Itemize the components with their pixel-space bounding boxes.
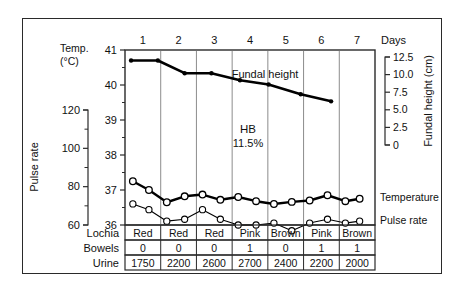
postnatal-observation-chart: 1234567Days414039383736Temp.(°C)12010080… [0, 0, 462, 293]
fundal-axis-bracket [385, 57, 390, 145]
table-cell-bowels-day-1: 0 [140, 242, 146, 254]
day-tick-label-5: 5 [283, 34, 289, 46]
data-point [324, 216, 330, 222]
fundal-tick-label-10.0: 10.0 [393, 68, 414, 80]
fundal-axis-title: Fundal height (cm) [422, 55, 434, 147]
table-cell-bowels-day-6: 1 [319, 242, 325, 254]
data-point [130, 178, 137, 185]
table-cell-urine-day-3: 2600 [203, 257, 227, 269]
table-cell-lochia-day-5: Brown [271, 227, 301, 239]
day-tick-label-1: 1 [140, 34, 146, 46]
data-point [324, 192, 331, 199]
day-tick-label-2: 2 [176, 34, 182, 46]
data-point [129, 58, 133, 62]
data-point [163, 199, 170, 206]
data-point [130, 201, 136, 207]
fundal-height-series-label: Fundal height [232, 68, 299, 80]
data-point [342, 198, 349, 205]
fundal-tick-label-0: 0 [393, 139, 399, 151]
data-point [146, 187, 153, 194]
days-axis-label: Days [381, 34, 407, 46]
hb-annotation-line2: 11.5% [233, 137, 264, 149]
data-point [253, 198, 260, 205]
data-point [329, 99, 333, 103]
day-tick-label-3: 3 [211, 34, 217, 46]
table-cell-lochia-day-4: Pink [240, 227, 261, 239]
table-cell-urine-day-2: 2200 [167, 257, 191, 269]
temp-axis-unit-label: (°C) [60, 55, 79, 67]
table-cell-urine-day-1: 1750 [131, 257, 155, 269]
data-point [217, 197, 224, 204]
hb-annotation-line1: HB [240, 123, 256, 135]
day-tick-label-7: 7 [354, 34, 360, 46]
data-point [199, 191, 206, 198]
table-cell-bowels-day-4: 1 [247, 242, 253, 254]
pulse-rate-series-label: Pulse rate [380, 214, 427, 226]
chart-canvas: 1234567Days414039383736Temp.(°C)12010080… [0, 0, 462, 293]
table-cell-lochia-day-7: Brown [342, 227, 372, 239]
data-point [181, 193, 188, 200]
table-cell-lochia-day-6: Pink [311, 227, 332, 239]
data-point [164, 218, 170, 224]
table-row-label-bowels: Bowels [84, 242, 120, 254]
table-cell-lochia-day-1: Red [133, 227, 152, 239]
table-cell-bowels-day-5: 0 [283, 242, 289, 254]
table-cell-urine-day-5: 2400 [274, 257, 298, 269]
fundal-tick-label-7.5: 7.5 [393, 86, 408, 98]
table-cell-urine-day-7: 2000 [345, 257, 369, 269]
temperature-series-label: Temperature [380, 191, 439, 203]
day-tick-label-4: 4 [247, 34, 253, 46]
fundal-tick-label-2.5: 2.5 [393, 121, 408, 133]
table-cell-bowels-day-7: 1 [354, 242, 360, 254]
table-row-label-lochia: Lochia [87, 227, 120, 239]
table-cell-urine-day-6: 2200 [310, 257, 334, 269]
temp-tick-label-39: 39 [105, 114, 117, 126]
temp-tick-label-40: 40 [105, 79, 117, 91]
fundal-tick-label-12.5: 12.5 [393, 51, 414, 63]
table-row-label-urine: Urine [93, 257, 119, 269]
data-point [235, 194, 242, 201]
data-point [209, 71, 213, 75]
data-point [271, 201, 278, 208]
fundal-tick-label-5.0: 5.0 [393, 103, 408, 115]
day-tick-label-6: 6 [318, 34, 324, 46]
pulse-axis-title: Pulse rate [28, 142, 40, 192]
data-point [357, 218, 363, 224]
temp-tick-label-41: 41 [105, 44, 117, 56]
pulse-tick-label-100: 100 [62, 142, 80, 154]
table-cell-urine-day-4: 2700 [238, 257, 262, 269]
temp-axis-label: Temp. [60, 42, 89, 54]
table-cell-bowels-day-2: 0 [176, 242, 182, 254]
temp-tick-label-38: 38 [105, 149, 117, 161]
data-point [182, 216, 188, 222]
table-cell-bowels-day-3: 0 [211, 242, 217, 254]
series-fundal-height [129, 58, 333, 103]
data-point [266, 82, 270, 86]
data-point [182, 71, 186, 75]
temp-tick-label-37: 37 [105, 184, 117, 196]
table-cell-lochia-day-3: Red [205, 227, 224, 239]
pulse-tick-label-120: 120 [62, 104, 80, 116]
data-point [217, 216, 223, 222]
data-point [299, 92, 303, 96]
data-point [156, 58, 160, 62]
pulse-tick-label-60: 60 [68, 219, 80, 231]
data-point [288, 199, 295, 206]
data-point [356, 195, 363, 202]
data-point [199, 207, 205, 213]
pulse-tick-label-80: 80 [68, 180, 80, 192]
table-cell-lochia-day-2: Red [169, 227, 188, 239]
series-temperature [130, 178, 363, 207]
data-point [146, 207, 152, 213]
data-point [306, 197, 313, 204]
